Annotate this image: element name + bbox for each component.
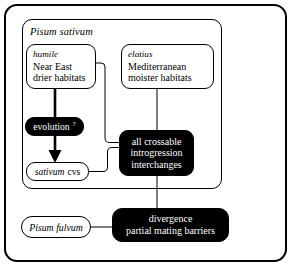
node-sativum-taxon: sativum — [35, 166, 65, 177]
node-elatius[interactable]: elatius Mediterranean moister habitats — [121, 44, 214, 89]
node-crossable-line1: all crossable — [132, 136, 182, 148]
node-divergence-line2: partial mating barriers — [126, 225, 215, 237]
node-evolution-label: evolution — [33, 121, 69, 133]
node-sativum-suffix: cvs — [68, 166, 81, 178]
panel-title: Pisum sativum — [30, 26, 93, 38]
node-evolution-question-mark: ? — [73, 120, 76, 128]
node-divergence-line1: divergence — [149, 213, 193, 225]
node-evolution[interactable]: evolution ? — [25, 117, 84, 136]
node-elatius-region: Mediterranean — [128, 61, 186, 73]
node-pisum-fulvum[interactable]: Pisum fulvum — [21, 216, 91, 238]
node-elatius-habitat: moister habitats — [128, 72, 192, 84]
node-crossable-line2: introgression — [130, 147, 182, 159]
node-humile-habitat: drier habitats — [33, 72, 85, 84]
node-humile-region: Near East — [33, 61, 72, 73]
node-divergence[interactable]: divergence partial mating barriers — [112, 208, 229, 242]
node-crossable-line3: interchanges — [131, 159, 182, 171]
node-fulvum-taxon: Pisum fulvum — [29, 222, 83, 233]
node-crossable-introgression[interactable]: all crossable introgression interchanges — [119, 130, 194, 176]
figure-canvas: Pisum sativum humile Near East drier hab… — [0, 0, 291, 266]
node-humile[interactable]: humile Near East drier habitats — [26, 44, 96, 89]
node-humile-taxon: humile — [33, 49, 58, 61]
node-sativum-cvs[interactable]: sativum cvs — [26, 162, 89, 181]
node-elatius-taxon: elatius — [128, 49, 153, 61]
